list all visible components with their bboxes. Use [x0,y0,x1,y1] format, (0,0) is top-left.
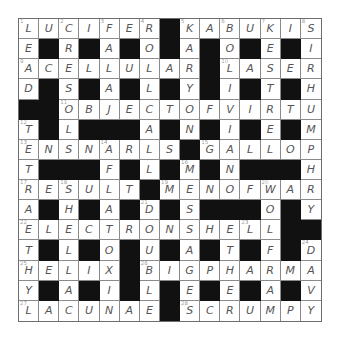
letter-cell[interactable]: 11O [59,100,79,120]
letter-cell[interactable]: T [160,100,180,120]
letter-cell[interactable]: T [261,79,281,99]
letter-cell[interactable]: E [59,59,79,79]
letter-cell[interactable]: L [100,180,120,200]
letter-cell[interactable]: A [39,301,59,321]
letter-cell[interactable]: N [39,140,59,160]
letter-cell[interactable]: C [59,301,79,321]
letter-cell[interactable]: R [59,39,79,59]
letter-cell[interactable]: 6B [220,19,240,39]
letter-cell[interactable]: 3F [100,19,120,39]
letter-cell[interactable]: A [220,140,240,160]
letter-cell[interactable]: L [100,59,120,79]
letter-cell[interactable]: O [220,39,240,59]
letter-cell[interactable]: 17R [19,180,39,200]
letter-cell[interactable]: I [79,261,99,281]
letter-cell[interactable]: 19M [160,180,180,200]
letter-cell[interactable]: 2C [59,19,79,39]
letter-cell[interactable]: T [281,100,301,120]
letter-cell[interactable]: L [261,220,281,240]
letter-cell[interactable]: C [200,301,220,321]
letter-cell[interactable]: U [240,301,260,321]
letter-cell[interactable]: M [281,261,301,281]
letter-cell[interactable]: T [100,220,120,240]
letter-cell[interactable]: I [79,19,99,39]
letter-cell[interactable]: 7K [261,19,281,39]
letter-cell[interactable]: E [59,220,79,240]
letter-cell[interactable]: O [281,140,301,160]
letter-cell[interactable]: F [100,160,120,180]
letter-cell[interactable]: 9A [19,59,39,79]
letter-cell[interactable]: T [19,240,39,260]
letter-cell[interactable]: 21D [140,200,160,220]
letter-cell[interactable]: I [160,261,180,281]
letter-cell[interactable]: O [100,240,120,260]
letter-cell[interactable]: S [59,140,79,160]
letter-cell[interactable]: L [59,261,79,281]
letter-cell[interactable]: R [301,59,321,79]
letter-cell[interactable]: Y [301,200,321,220]
letter-cell[interactable]: O [140,220,160,240]
letter-cell[interactable]: Y [180,79,200,99]
letter-cell[interactable]: 1L [19,19,39,39]
letter-cell[interactable]: B [79,100,99,120]
letter-cell[interactable]: 28S [180,301,200,321]
letter-cell[interactable]: A [120,301,140,321]
letter-cell[interactable]: U [79,301,99,321]
letter-cell[interactable]: E [261,120,281,140]
letter-cell[interactable]: U [39,19,59,39]
letter-cell[interactable]: L [59,120,79,140]
letter-cell[interactable]: 14A [100,140,120,160]
letter-cell[interactable]: C [79,220,99,240]
letter-cell[interactable]: 26B [140,261,160,281]
letter-cell[interactable]: S [180,220,200,240]
letter-cell[interactable]: T [120,180,140,200]
letter-cell[interactable]: H [200,220,220,240]
letter-cell[interactable]: S [261,59,281,79]
letter-cell[interactable]: 23L [240,220,260,240]
letter-cell[interactable]: L [140,140,160,160]
letter-cell[interactable]: 27L [19,301,39,321]
letter-cell[interactable]: A [281,180,301,200]
letter-cell[interactable]: P [281,301,301,321]
letter-cell[interactable]: L [240,140,260,160]
letter-cell[interactable]: R [220,301,240,321]
letter-cell[interactable]: I [220,79,240,99]
letter-cell[interactable]: L [140,79,160,99]
letter-cell[interactable]: L [261,140,281,160]
letter-cell[interactable]: E [140,301,160,321]
letter-cell[interactable]: M [261,301,281,321]
letter-cell[interactable]: E [120,100,140,120]
letter-cell[interactable]: M [301,120,321,140]
letter-cell[interactable]: A [59,281,79,301]
letter-cell[interactable]: V [220,100,240,120]
letter-cell[interactable]: S [59,79,79,99]
letter-cell[interactable]: H [301,79,321,99]
letter-cell[interactable]: I [301,39,321,59]
letter-cell[interactable]: Y [301,301,321,321]
letter-cell[interactable]: F [200,100,220,120]
letter-cell[interactable]: 10L [220,59,240,79]
letter-cell[interactable]: H [220,261,240,281]
letter-cell[interactable]: L [140,59,160,79]
letter-cell[interactable]: R [261,261,281,281]
letter-cell[interactable]: T [19,160,39,180]
letter-cell[interactable]: C [39,59,59,79]
letter-cell[interactable]: H [59,200,79,220]
letter-cell[interactable]: N [100,301,120,321]
letter-cell[interactable]: E [180,281,200,301]
letter-cell[interactable]: A [180,39,200,59]
letter-cell[interactable]: C [140,100,160,120]
letter-cell[interactable]: F [240,180,260,200]
letter-cell[interactable]: 8S [301,19,321,39]
letter-cell[interactable]: D [19,79,39,99]
letter-cell[interactable]: R [301,180,321,200]
letter-cell[interactable]: N [220,160,240,180]
letter-cell[interactable]: O [180,100,200,120]
letter-cell[interactable]: P [301,140,321,160]
letter-cell[interactable]: R [120,140,140,160]
letter-cell[interactable]: N [160,220,180,240]
letter-cell[interactable]: T [220,240,240,260]
letter-cell[interactable]: F [261,240,281,260]
letter-cell[interactable]: 12T [19,120,39,140]
letter-cell[interactable]: I [240,100,260,120]
